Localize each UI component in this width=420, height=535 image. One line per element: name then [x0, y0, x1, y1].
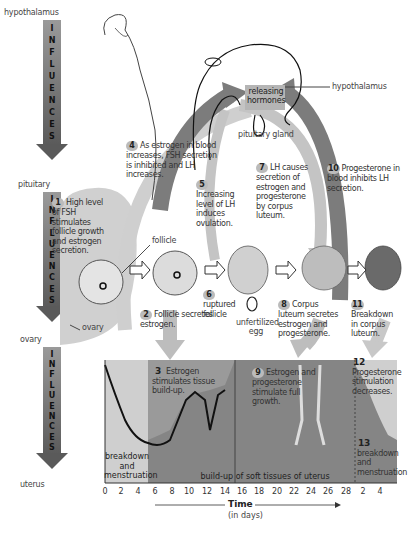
step-12: 12Progesterone stimulation decreases.: [352, 357, 410, 396]
step-13: 13breakdown and menstruation: [357, 438, 399, 477]
x-axis-title: Time: [228, 499, 253, 509]
unfertilized-egg-label: unfertilized egg: [236, 318, 276, 336]
step-3: 3Estrogen stimulates tissue build-up.: [152, 366, 222, 396]
follicle-label: follicle: [152, 236, 176, 245]
x-axis-subtitle: (in days): [228, 511, 263, 520]
step-6: 6ruptured follicle: [203, 290, 245, 319]
pituitary-gland-label: pituitary gland: [238, 130, 294, 139]
step-5: 5Increasing level of LH induces ovulatio…: [196, 180, 246, 228]
step-11: 11Breakdown in corpus luteum.: [351, 300, 401, 339]
step-4: 4As estrogen in blood increases, FSH sec…: [126, 141, 221, 180]
step-1: 1High level of FSH stimulates follicle g…: [52, 198, 112, 256]
releasing-hormones-label: releasing hormones: [247, 87, 285, 105]
hypothalamus-label: hypothalamus: [332, 82, 387, 91]
ovary-label: ovary: [82, 323, 104, 332]
step-9: 9Estrogen and progesterone stimulate ful…: [252, 368, 320, 407]
phase-label-buildup: build-up of soft tissues of uterus: [180, 472, 350, 482]
ruptured-follicle: [228, 246, 268, 294]
step-7: 7LH causes secretion of estrogen and pro…: [256, 163, 311, 221]
corpus-luteum-breakdown: [365, 246, 401, 290]
step-8: 8Corpus luteum secretes estrogen and pro…: [278, 300, 346, 339]
unfertilized-egg: [247, 297, 257, 311]
step-10: 10Progesterone in blood inhibits LH secr…: [327, 164, 407, 193]
corpus-luteum: [302, 246, 346, 290]
follicle-stage-1: [79, 260, 123, 304]
phase-label-menstruation-left: breakdown and menstruation: [104, 452, 150, 481]
